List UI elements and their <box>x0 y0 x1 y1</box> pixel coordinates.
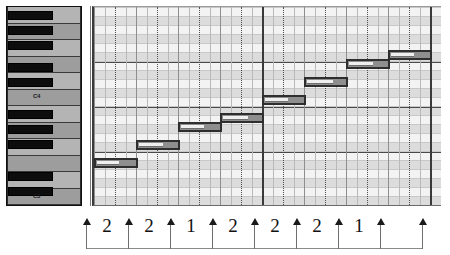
piano-white-key[interactable] <box>8 90 80 107</box>
grid-subdivision-line <box>441 7 442 205</box>
piano-black-key[interactable] <box>8 63 53 72</box>
grid-bar-line <box>430 7 432 205</box>
piano-black-key[interactable] <box>8 172 53 181</box>
note-velocity-bar <box>139 143 163 147</box>
grid-beat-line <box>178 7 179 205</box>
piano-black-key[interactable] <box>8 41 53 50</box>
grid-subdivision-line <box>273 7 274 205</box>
grid-halfbar-line <box>199 7 200 205</box>
grid-halfbar-line <box>115 7 116 205</box>
grid-beat-line <box>388 7 389 205</box>
piano-black-key[interactable] <box>8 187 53 196</box>
interval-label: 2 <box>296 215 338 237</box>
piano-black-key[interactable] <box>8 11 53 20</box>
grid-subdivision-line <box>378 7 379 205</box>
note-block[interactable] <box>136 140 180 150</box>
note-block[interactable] <box>94 158 138 168</box>
piano-white-key[interactable] <box>8 156 80 173</box>
grid-subdivision-line <box>336 7 337 205</box>
grid-bar-line <box>262 7 264 205</box>
grid-beat-line <box>136 7 137 205</box>
interval-label: 2 <box>86 215 128 237</box>
grid-beat-line <box>94 7 95 205</box>
note-velocity-bar <box>349 62 373 66</box>
note-block[interactable] <box>262 95 306 105</box>
grid-beat-line <box>220 7 221 205</box>
note-block[interactable] <box>388 50 432 60</box>
grid-subdivision-line <box>189 7 190 205</box>
grid-halfbar-line <box>241 7 242 205</box>
note-velocity-bar <box>307 80 333 84</box>
note-block[interactable] <box>178 122 222 132</box>
piano-black-key[interactable] <box>8 140 53 149</box>
keyboard-grid-divider <box>82 6 91 206</box>
grid-halfbar-line <box>367 7 368 205</box>
interval-tick-arrow <box>422 219 423 249</box>
grid-subdivision-line <box>294 7 295 205</box>
note-velocity-bar <box>265 98 288 102</box>
grid-subdivision-line <box>210 7 211 205</box>
grid-halfbar-line <box>325 7 326 205</box>
note-block[interactable] <box>304 77 348 87</box>
note-velocity-bar <box>97 161 119 165</box>
grid-beat-line <box>346 7 347 205</box>
note-velocity-bar <box>391 53 414 57</box>
interval-label: 1 <box>338 215 380 237</box>
key-label-c4: C4 <box>33 93 40 99</box>
grid-halfbar-line <box>157 7 158 205</box>
grid-subdivision-line <box>168 7 169 205</box>
interval-tick-arrow <box>380 219 381 249</box>
interval-label: 2 <box>128 215 170 237</box>
grid-subdivision-line <box>231 7 232 205</box>
piano-black-key[interactable] <box>8 125 53 134</box>
grid-halfbar-line <box>409 7 410 205</box>
note-block[interactable] <box>346 59 390 69</box>
grid-subdivision-line <box>126 7 127 205</box>
piano-black-key[interactable] <box>8 26 53 35</box>
piano-keyboard[interactable]: C4C3 <box>6 6 82 206</box>
note-velocity-bar <box>223 116 248 120</box>
interval-label: 2 <box>212 215 254 237</box>
interval-label: 2 <box>254 215 296 237</box>
grid-subdivision-line <box>357 7 358 205</box>
interval-annotation-ruler: 2212221 <box>86 209 435 253</box>
grid-subdivision-line <box>252 7 253 205</box>
note-velocity-bar <box>181 125 204 129</box>
interval-label: 1 <box>170 215 212 237</box>
piano-roll-grid[interactable] <box>92 6 441 206</box>
grid-subdivision-line <box>315 7 316 205</box>
grid-subdivision-line <box>147 7 148 205</box>
note-block[interactable] <box>220 113 264 123</box>
piano-black-key[interactable] <box>8 78 53 87</box>
piano-black-key[interactable] <box>8 110 53 119</box>
grid-beat-line <box>304 7 305 205</box>
grid-subdivision-line <box>420 7 421 205</box>
grid-halfbar-line <box>283 7 284 205</box>
piano-roll-editor: C4C3 <box>6 6 441 206</box>
grid-subdivision-line <box>399 7 400 205</box>
grid-subdivision-line <box>105 7 106 205</box>
key-label-c3: C3 <box>33 193 40 199</box>
